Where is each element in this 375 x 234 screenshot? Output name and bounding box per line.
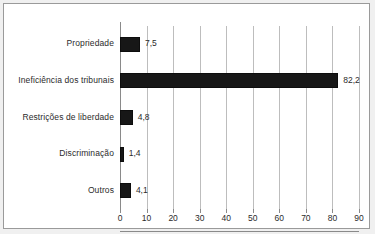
x-tick-0: [120, 209, 121, 213]
x-tick-90: [359, 209, 360, 213]
x-tick-70: [306, 209, 307, 213]
x-tick-label: 0: [108, 213, 132, 223]
bar: [120, 183, 131, 198]
gridline-50: [253, 26, 254, 209]
x-tick-label: 20: [161, 213, 185, 223]
category-label: Outros: [88, 185, 114, 195]
category-label: Propriedade: [67, 38, 114, 48]
chart-frame: 0102030405060708090Propriedade7,5Inefici…: [3, 3, 370, 229]
bar: [120, 73, 338, 88]
x-tick-label: 80: [320, 213, 344, 223]
gridline-30: [200, 26, 201, 209]
x-tick-label: 90: [347, 213, 371, 223]
x-tick-label: 60: [267, 213, 291, 223]
x-tick-label: 10: [135, 213, 159, 223]
x-tick-30: [200, 209, 201, 213]
plot-area: [120, 26, 359, 209]
x-axis-line: [120, 231, 359, 232]
gridline-80: [332, 26, 333, 209]
category-label: Ineficiência dos tribunais: [18, 75, 114, 85]
x-tick-top-0: [120, 22, 121, 26]
x-tick-label: 30: [188, 213, 212, 223]
gridline-40: [226, 26, 227, 209]
x-tick-10: [147, 209, 148, 213]
x-tick-label: 50: [241, 213, 265, 223]
gridline-10: [147, 26, 148, 209]
bar: [120, 147, 124, 162]
gridline-70: [306, 26, 307, 209]
category-label: Restrições de liberdade: [22, 112, 114, 122]
x-tick-40: [226, 209, 227, 213]
x-tick-label: 40: [214, 213, 238, 223]
gridline-20: [173, 26, 174, 209]
x-tick-50: [253, 209, 254, 213]
x-tick-20: [173, 209, 174, 213]
gridline-60: [279, 26, 280, 209]
x-tick-60: [279, 209, 280, 213]
x-tick-label: 70: [294, 213, 318, 223]
bar: [120, 37, 140, 52]
category-label: Discriminação: [59, 148, 114, 158]
x-tick-80: [332, 209, 333, 213]
bar: [120, 110, 133, 125]
gridline-90: [359, 26, 360, 209]
